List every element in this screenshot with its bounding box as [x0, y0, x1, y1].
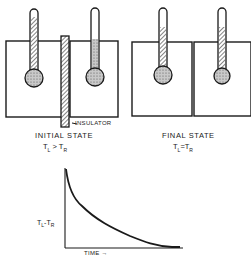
t-right-sub: R — [51, 222, 55, 228]
t-right-sub: R — [63, 147, 67, 153]
decay-curve — [66, 169, 180, 247]
initial-state-condition: TL > TR — [43, 142, 67, 153]
t-left-sub: L — [48, 147, 51, 153]
x-label-text: TIME — [84, 250, 100, 256]
final-state-condition: TL=TR — [173, 142, 193, 153]
final-state-caption: FINAL STATE — [162, 131, 215, 140]
initial-state-group — [6, 8, 118, 127]
insulator-bar — [61, 36, 69, 127]
graph-x-label: TIME → — [84, 250, 108, 256]
insulator-label: INSULATOR — [75, 120, 112, 126]
t-right-sub: R — [189, 147, 193, 153]
operator: > — [52, 142, 56, 151]
initial-state-caption: INITIAL STATE — [35, 131, 93, 140]
arrow-right-icon: → — [102, 250, 108, 256]
final-state-group — [132, 8, 251, 116]
graph-y-label: TL-TR — [37, 219, 54, 228]
decay-graph — [65, 168, 183, 248]
